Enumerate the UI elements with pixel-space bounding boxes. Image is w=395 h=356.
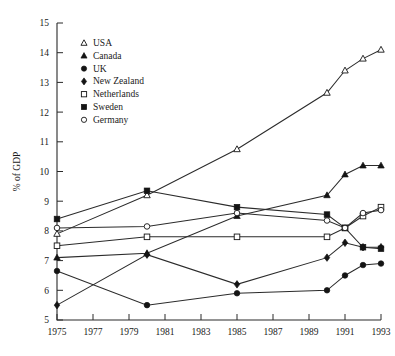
legend-item-germany[interactable]: Germany [81,115,128,125]
series-uk [54,261,384,308]
legend-item-label: Canada [93,51,122,61]
series-new-zealand [54,239,383,309]
legend-item-uk[interactable]: UK [81,64,106,74]
data-point-marker [81,53,87,59]
data-point-marker [324,218,330,224]
data-point-marker [54,301,59,308]
x-tick-label: 1979 [120,327,139,337]
data-point-marker [81,66,86,71]
line-chart: 5678910111213141519751977197919811983198… [0,0,395,356]
series-canada [54,162,384,260]
y-tick-label: 15 [40,18,50,28]
series-line [57,191,381,249]
data-point-marker [81,117,86,122]
x-axis-ticks: 1975197719791981198319851987198919911993 [48,314,391,337]
data-point-marker [144,234,150,240]
data-point-marker [81,92,86,97]
legend-item-usa[interactable]: USA [81,38,112,48]
y-axis-label: % of GDP [12,152,22,192]
x-tick-label: 1975 [48,327,67,337]
series-netherlands [54,204,384,248]
data-point-marker [144,302,150,308]
data-point-marker [81,40,87,46]
data-point-marker [144,188,150,194]
x-tick-label: 1989 [300,327,319,337]
data-point-marker [378,261,384,267]
y-tick-label: 13 [40,78,50,88]
data-point-marker [144,224,150,230]
data-point-marker [342,171,348,177]
x-tick-label: 1991 [336,327,355,337]
series-line [57,166,381,258]
data-point-marker [324,212,330,218]
legend-item-label: Sweden [93,102,123,112]
legend-item-netherlands[interactable]: Netherlands [81,89,139,99]
data-point-marker [378,46,384,52]
y-axis-ticks: 56789101112131415 [40,18,64,325]
series-line [57,264,381,306]
data-point-marker [342,273,348,279]
y-tick-label: 10 [40,167,50,177]
x-tick-label: 1987 [264,327,283,337]
legend-item-new-zealand[interactable]: New Zealand [81,76,144,86]
data-point-marker [54,216,60,222]
y-tick-label: 11 [40,137,49,147]
data-point-marker [324,254,329,261]
data-point-marker [234,290,240,296]
data-point-marker [360,244,366,250]
x-tick-label: 1981 [156,327,175,337]
data-point-marker [342,239,347,246]
series-sweden [54,188,384,251]
y-tick-label: 6 [44,286,49,296]
series-usa [54,46,384,236]
legend-item-label: Netherlands [93,89,139,99]
data-point-marker [360,55,366,61]
y-tick-label: 12 [40,108,50,118]
y-tick-label: 14 [40,48,50,58]
data-point-marker [342,67,348,73]
data-point-marker [324,288,330,294]
x-tick-label: 1977 [84,327,103,337]
legend-item-label: New Zealand [93,76,144,86]
chart-canvas: 5678910111213141519751977197919811983198… [0,0,395,356]
data-point-marker [234,281,239,288]
legend-item-label: UK [93,64,107,74]
data-point-marker [234,146,240,152]
y-tick-label: 7 [44,256,49,266]
legend: USACanadaUKNew ZealandNetherlandsSwedenG… [81,38,144,125]
data-point-marker [378,207,384,213]
data-point-marker [360,210,366,216]
series-germany [54,207,384,230]
data-point-marker [54,243,60,249]
data-point-marker [324,234,330,240]
data-point-marker [360,262,366,268]
x-tick-label: 1983 [192,327,211,337]
x-tick-label: 1985 [228,327,247,337]
y-tick-label: 5 [44,315,49,325]
data-point-marker [54,268,60,274]
data-point-marker [378,246,384,252]
data-point-marker [81,78,86,85]
legend-item-sweden[interactable]: Sweden [81,102,123,112]
y-tick-label: 9 [44,197,49,207]
data-point-marker [54,225,60,231]
legend-item-label: USA [93,38,112,48]
legend-item-label: Germany [93,115,129,125]
data-point-marker [234,210,240,216]
x-tick-label: 1993 [372,327,391,337]
data-point-marker [342,225,348,231]
data-point-marker [234,234,240,240]
data-point-marker [81,104,86,109]
legend-item-canada[interactable]: Canada [81,51,122,61]
data-point-marker [234,204,240,210]
y-tick-label: 8 [44,226,49,236]
